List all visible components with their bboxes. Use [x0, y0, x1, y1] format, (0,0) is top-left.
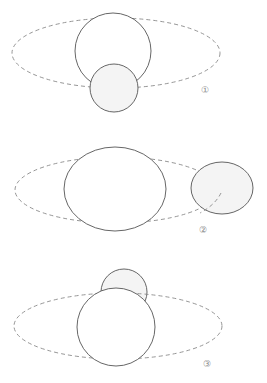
panel-2: ② [15, 147, 253, 235]
diagram-canvas: ① ② ③ [0, 0, 267, 383]
panel-1: ① [12, 13, 220, 112]
panel-label: ② [199, 225, 207, 235]
small-circle [90, 64, 138, 112]
panel-label: ① [201, 85, 209, 95]
large-circle [64, 147, 166, 231]
small-circle [191, 162, 253, 214]
large-circle [77, 288, 155, 366]
panel-label: ③ [203, 359, 211, 369]
panel-3: ③ [14, 269, 222, 369]
